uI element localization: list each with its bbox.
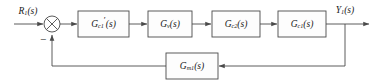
svg-text:Gv(s): Gv(s) xyxy=(160,19,180,30)
block2-arg: (s) xyxy=(170,19,180,30)
block-gc1[interactable]: Gc1(s) xyxy=(278,11,326,37)
block-gc2[interactable]: Gc2(s) xyxy=(212,11,260,37)
minus-sign: − xyxy=(40,33,46,45)
block1-arg: (s) xyxy=(106,19,116,30)
block-gc1-prime[interactable]: Gc1′(s) xyxy=(78,11,129,37)
block-gv[interactable]: Gv(s) xyxy=(148,11,192,37)
fb-sub: m1 xyxy=(187,64,195,71)
fb-arg: (s) xyxy=(194,61,204,72)
block-diagram-canvas: R1(s) − Gc1′(s) xyxy=(0,0,378,80)
block4-arg: (s) xyxy=(303,19,313,30)
output-signal-label: Y1(s) xyxy=(336,5,354,16)
svg-text:R1(s): R1(s) xyxy=(18,6,38,17)
output-arg: (s) xyxy=(344,5,354,16)
block3-arg: (s) xyxy=(237,19,247,30)
input-signal-label: R1(s) xyxy=(18,6,38,17)
block-gm1[interactable]: Gm1(s) xyxy=(166,53,218,79)
negative-sign-label: − xyxy=(40,33,46,45)
summing-junction[interactable] xyxy=(44,16,60,32)
input-arg: (s) xyxy=(27,6,37,17)
svg-text:Y1(s): Y1(s) xyxy=(336,5,354,16)
